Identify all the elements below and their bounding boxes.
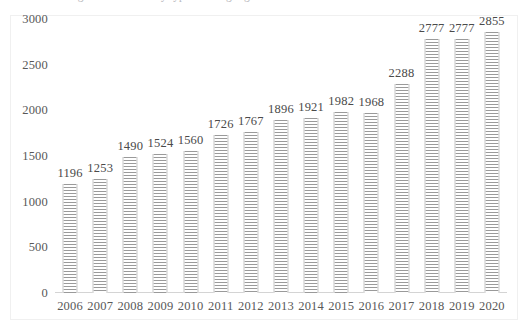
y-axis-tick-label: 500	[29, 240, 48, 255]
bar-value-label: 1196	[57, 166, 82, 181]
bar-group: 27772019	[447, 19, 477, 293]
bar[interactable]	[93, 179, 108, 293]
x-axis-tick-label: 2020	[479, 299, 505, 314]
x-axis-tick-label: 2007	[87, 299, 113, 314]
caption-text: Number of registered vessels by type and…	[14, 0, 343, 1]
bar-value-label: 1982	[328, 94, 354, 109]
bar-group: 19682016	[356, 19, 386, 293]
bar-value-label: 1896	[268, 102, 294, 117]
chart-frame: 050010001500200025003000 119620061253200…	[10, 15, 518, 320]
bar[interactable]	[63, 184, 78, 293]
bar[interactable]	[123, 157, 138, 293]
bar[interactable]	[213, 135, 228, 293]
x-axis-tick-label: 2008	[117, 299, 143, 314]
bar[interactable]	[454, 39, 469, 293]
bar-value-label: 1524	[148, 136, 174, 151]
bar[interactable]	[394, 84, 409, 293]
bar[interactable]	[273, 120, 288, 293]
y-axis-tick-label: 1500	[22, 149, 48, 164]
bar-group: 17262011	[206, 19, 236, 293]
bar[interactable]	[153, 154, 168, 293]
x-axis-tick-label: 2014	[298, 299, 324, 314]
bar-group: 14902008	[115, 19, 145, 293]
bar-value-label: 2288	[389, 66, 415, 81]
bar-value-label: 2777	[419, 21, 445, 36]
y-axis-tick-label: 3000	[22, 12, 48, 27]
x-axis-tick-label: 2011	[208, 299, 233, 314]
x-axis-tick-label: 2012	[238, 299, 264, 314]
x-axis-tick-label: 2018	[419, 299, 445, 314]
bar[interactable]	[183, 151, 198, 293]
x-axis-tick-label: 2009	[148, 299, 174, 314]
bar-value-label: 1726	[208, 117, 234, 132]
bar-group: 27772018	[417, 19, 447, 293]
clipped-caption-strip: Number of registered vessels by type and…	[0, 0, 529, 13]
y-axis-tick-label: 0	[42, 286, 48, 301]
bar-value-label: 1767	[238, 114, 264, 129]
y-axis-tick-label: 1000	[22, 194, 48, 209]
bar-value-label: 2777	[449, 21, 475, 36]
x-axis-tick-label: 2010	[178, 299, 204, 314]
bar-value-label: 2855	[479, 14, 505, 29]
bar-group: 12532007	[85, 19, 115, 293]
bar-value-label: 1253	[87, 161, 113, 176]
bar-value-label: 1921	[298, 100, 324, 115]
bar-value-label: 1968	[358, 95, 384, 110]
bar[interactable]	[243, 132, 258, 293]
y-axis-tick-label: 2500	[22, 57, 48, 72]
plot-area: 050010001500200025003000 119620061253200…	[55, 19, 507, 293]
x-axis-tick-label: 2016	[358, 299, 384, 314]
bar-group: 28552020	[477, 19, 507, 293]
bar[interactable]	[334, 112, 349, 293]
bar[interactable]	[364, 113, 379, 293]
bar-group: 17672012	[236, 19, 266, 293]
bar-group: 18962013	[266, 19, 296, 293]
x-axis-tick-label: 2019	[449, 299, 475, 314]
bar[interactable]	[484, 32, 499, 293]
bar-group: 15602010	[176, 19, 206, 293]
bar[interactable]	[304, 118, 319, 293]
bar[interactable]	[424, 39, 439, 293]
y-axis-tick-label: 2000	[22, 103, 48, 118]
bar-group: 11962006	[55, 19, 85, 293]
bar-group: 22882017	[386, 19, 416, 293]
bar-group: 15242009	[145, 19, 175, 293]
bar-value-label: 1490	[117, 139, 143, 154]
bar-group: 19212014	[296, 19, 326, 293]
x-axis-tick-label: 2015	[328, 299, 354, 314]
x-axis-tick-label: 2013	[268, 299, 294, 314]
x-axis-tick-label: 2017	[389, 299, 415, 314]
bar-value-label: 1560	[178, 133, 204, 148]
x-axis-tick-label: 2006	[57, 299, 83, 314]
bar-group: 19822015	[326, 19, 356, 293]
